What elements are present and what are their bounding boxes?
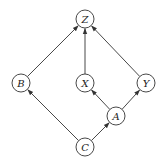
edge-b-to-z [27,26,78,77]
node-c: C [76,138,94,156]
node-y: Y [137,74,155,92]
node-label: A [111,111,119,122]
node-b: B [12,74,30,92]
node-a: A [107,107,125,125]
nodes-layer: ZBXYAC [12,10,155,156]
edge-c-to-a [91,123,109,141]
node-label: X [80,78,89,89]
node-label: B [16,78,24,89]
edge-y-to-z [92,26,140,77]
node-z: Z [76,10,94,28]
node-x: X [76,74,94,92]
edge-a-to-y [122,90,140,109]
edge-a-to-x [92,90,110,110]
node-label: Z [81,14,90,25]
causal-graph: ZBXYAC [0,0,167,166]
edge-c-to-b [28,90,79,141]
node-label: C [81,142,89,153]
